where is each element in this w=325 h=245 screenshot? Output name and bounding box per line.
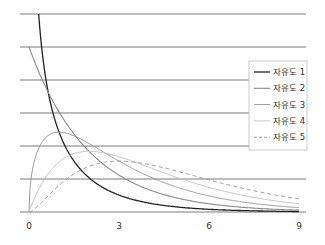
curve-df-4 — [29, 151, 299, 212]
x-tick-label: 6 — [206, 221, 212, 231]
legend-label-df-5: 자유도 5 — [273, 132, 305, 142]
legend-label-df-3: 자유도 3 — [273, 100, 305, 110]
legend-label-df-4: 자유도 4 — [273, 116, 305, 126]
x-tick-label: 9 — [296, 221, 302, 231]
legend-label-df-1: 자유도 1 — [273, 67, 305, 77]
chi-squared-chart: 0369 자유도 1자유도 2자유도 3자유도 4자유도 5 — [0, 0, 325, 245]
legend: 자유도 1자유도 2자유도 3자유도 4자유도 5 — [249, 61, 307, 150]
x-tick-label: 3 — [116, 221, 122, 231]
x-tick-label: 0 — [26, 221, 32, 231]
x-axis-tick-labels: 0369 — [26, 221, 302, 231]
legend-label-df-2: 자유도 2 — [273, 83, 305, 93]
